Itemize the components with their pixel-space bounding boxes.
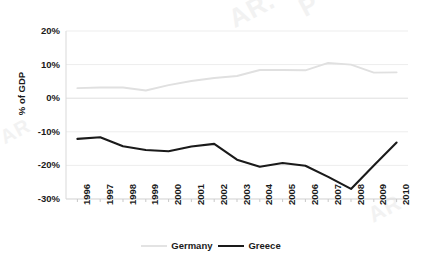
legend-item-germany: Germany xyxy=(141,240,212,251)
x-tick-label: 2002 xyxy=(219,184,229,205)
x-tick-label: 1998 xyxy=(128,184,138,205)
x-tick-label: 2001 xyxy=(196,184,206,205)
x-tick-label: 2007 xyxy=(333,184,343,205)
x-tick-label: 2004 xyxy=(264,184,274,205)
x-tick-label: 2008 xyxy=(356,184,366,205)
legend-label-greece: Greece xyxy=(248,240,280,251)
gridlines xyxy=(66,31,408,199)
series-lines xyxy=(77,63,396,189)
x-tick-label: 2009 xyxy=(378,184,388,205)
legend-swatch-germany xyxy=(141,245,167,247)
x-tick-label: 2003 xyxy=(242,184,252,205)
x-tick-label: 1997 xyxy=(105,184,115,205)
chart-container: AR. P AR AR % of GDP 20%10%0%-10%-20%-30… xyxy=(0,0,422,262)
chart-legend: Germany Greece xyxy=(0,240,422,251)
x-tick-label: 2005 xyxy=(287,184,297,205)
series-line-germany xyxy=(77,63,396,91)
series-line-greece xyxy=(77,137,396,189)
x-tick-label: 2000 xyxy=(173,184,183,205)
x-tick-label: 2006 xyxy=(310,184,320,205)
x-tick-label: 1996 xyxy=(82,184,92,205)
legend-swatch-greece xyxy=(218,245,244,247)
x-tick-label: 1999 xyxy=(150,184,160,205)
x-tick-label: 2010 xyxy=(401,184,411,205)
legend-item-greece: Greece xyxy=(218,240,280,251)
legend-label-germany: Germany xyxy=(171,240,212,251)
plot-area xyxy=(0,0,422,262)
